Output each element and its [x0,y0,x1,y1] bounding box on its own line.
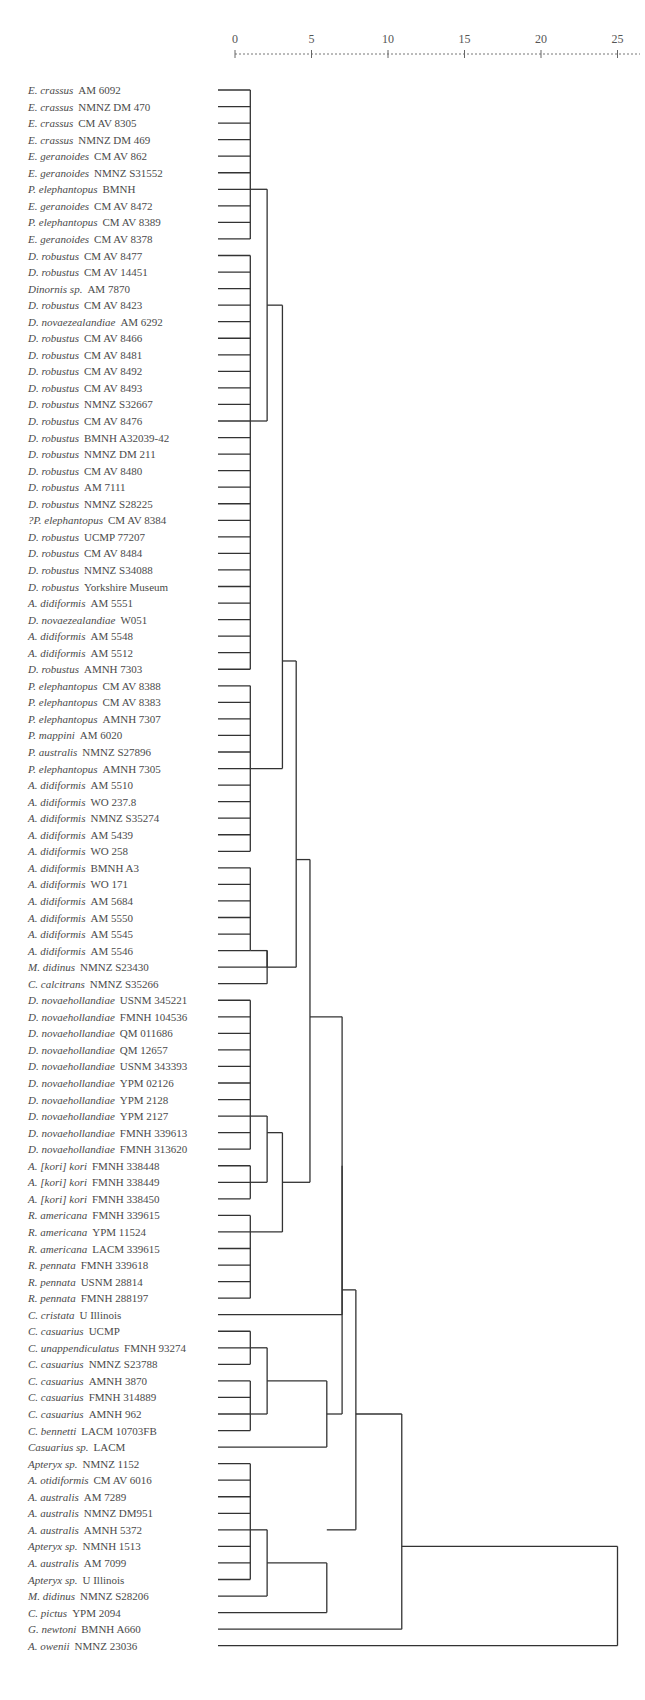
dendrogram-tree [0,0,645,1700]
